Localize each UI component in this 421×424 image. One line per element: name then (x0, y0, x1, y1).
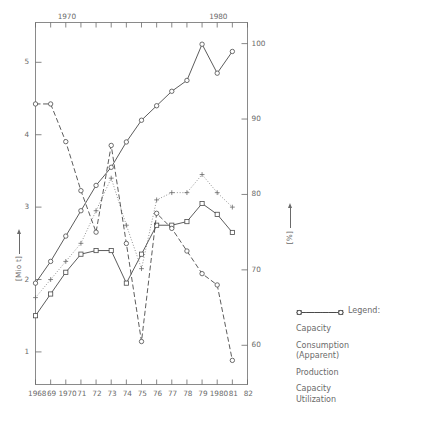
x-tick-label-top-1980: 1980 (209, 12, 227, 21)
x-tick-label-81: 81 (229, 389, 238, 398)
legend-label-capacity: Capacity (296, 324, 331, 335)
legend-symbol-capacity-utilization (296, 307, 344, 318)
y-tick-label-2: 2 (25, 275, 30, 284)
y2-tick-label-80: 80 (252, 189, 261, 198)
series-consumption-apparent (33, 201, 234, 317)
right-axis-arrow-shaft (290, 208, 291, 228)
x-tick-label-top-1970: 1970 (58, 12, 76, 21)
x-tick-label-74: 74 (123, 389, 132, 398)
legend-label-production: Production (296, 368, 339, 379)
x-tick-label-76: 76 (153, 389, 162, 398)
legend-label-consumption: Consumption (Apparent) (296, 341, 349, 362)
left-axis-title: [Mio t] (14, 256, 23, 281)
x-tick-label-73: 73 (108, 389, 117, 398)
x-tick-label-75: 75 (138, 389, 147, 398)
right-axis-title: [%] (285, 231, 294, 244)
y-tick-label-1: 1 (25, 347, 30, 356)
legend-title: Legend: (348, 306, 421, 315)
x-tick-label-69: 69 (47, 389, 56, 398)
legend-item-consumption: Consumption (Apparent) (296, 341, 421, 362)
x-tick-label-72: 72 (92, 389, 101, 398)
y2-tick-label-90: 90 (252, 114, 261, 123)
left-axis-arrow-shaft (19, 234, 20, 254)
x-tick-label-79: 79 (198, 389, 207, 398)
y-tick-label-5: 5 (25, 57, 30, 66)
y-tick-label-4: 4 (25, 130, 30, 139)
x-tick-label-1970: 1970 (58, 389, 76, 398)
series-capacity (33, 42, 234, 285)
x-tick-label-71: 71 (77, 389, 86, 398)
x-tick-label-1968: 1968 (28, 389, 46, 398)
x-tick-label-77: 77 (168, 389, 177, 398)
legend-item-capacity: Capacity (296, 324, 421, 335)
series-capacity-utilization (33, 102, 234, 363)
y-tick-label-3: 3 (25, 202, 30, 211)
legend-label-consumption-line2: (Apparent) (296, 351, 339, 360)
legend-label-cu-line1: Capacity (296, 384, 331, 393)
y2-tick-label-100: 100 (252, 39, 266, 48)
y2-tick-label-60: 60 (252, 340, 261, 349)
legend-label-consumption-line1: Consumption (296, 341, 349, 350)
legend-label-cu-line2: Utilization (296, 395, 336, 404)
legend-item-capacity-utilization: Capacity Utilization (296, 384, 421, 405)
x-tick-label-82: 82 (244, 389, 253, 398)
legend-label-capacity-utilization: Capacity Utilization (296, 384, 336, 405)
x-tick-label-78: 78 (183, 389, 192, 398)
legend-item-production: Production (296, 368, 421, 379)
x-tick-label-1980: 1980 (210, 389, 228, 398)
y2-tick-label-70: 70 (252, 265, 261, 274)
legend: Legend: Capacity Consumption (Apparent) … (296, 306, 421, 411)
